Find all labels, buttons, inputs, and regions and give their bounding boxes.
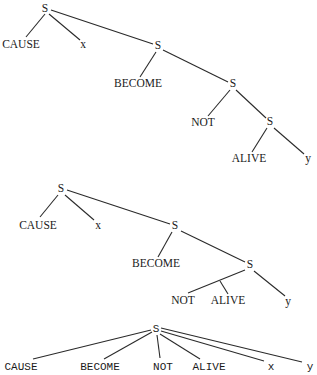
tree-edge [254,271,285,296]
node-alive: ALIVE [192,361,225,373]
tree-edge [188,270,245,293]
tree-edge [220,281,228,294]
tree-edge [236,90,266,118]
tree-edge [140,52,156,77]
tree-edge [65,195,94,220]
tree-edge [157,335,160,358]
tree-edge [33,330,151,359]
node-become: BECOME [114,77,162,89]
tree-edge [40,195,58,217]
tree-edge [181,231,245,262]
node-alive: ALIVE [211,294,246,306]
tree-nested: SCAUSExSBECOMESNOTSALIVEy [2,2,311,165]
tree-edge [274,128,304,154]
tree-edge [67,190,170,224]
node-not: NOT [153,361,173,373]
node-y: y [307,361,314,373]
tree-edge [252,128,267,152]
node-x: x [268,361,275,373]
node-cause: CAUSE [19,219,57,231]
tree-edge [161,328,302,362]
node-not: NOT [171,294,195,306]
sentence-node: S [172,219,178,231]
node-y: y [285,295,291,308]
node-x: x [95,219,101,231]
node-x: x [80,38,86,50]
tree-edge [160,334,200,359]
node-y: y [305,152,311,165]
tree-flat: SCAUSEBECOMENOTALIVExy [4,323,313,373]
sentence-node: S [155,39,161,51]
node-become: BECOME [132,257,180,269]
sentence-node: S [230,77,236,89]
semantic-decomposition-trees: SCAUSExSBECOMESNOTSALIVEy SCAUSExSBECOME… [0,0,317,375]
node-alive: ALIVE [232,152,267,164]
tree-edge [51,10,153,44]
tree-edge [161,331,264,361]
tree-edge [208,90,230,116]
node-not: NOT [191,116,215,128]
tree-edge [158,232,172,257]
tree-partially-flattened: SCAUSExSBECOMESNOTALIVEy [19,182,291,308]
sentence-node: S [267,115,273,127]
tree-edge [26,14,45,37]
sentence-node: S [58,182,64,194]
node-cause: CAUSE [4,361,37,373]
node-become: BECOME [80,361,120,373]
tree-edge [163,50,228,82]
sentence-node: S [42,2,48,14]
node-cause: CAUSE [2,38,40,50]
sentence-node: S [247,258,253,270]
sentence-node: S [153,323,160,335]
